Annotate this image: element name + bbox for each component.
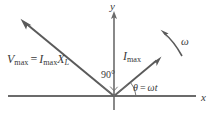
current-subscript: max	[127, 55, 141, 64]
time-symbol: t	[155, 82, 158, 93]
phasor-diagram-figure: Vmax=ImaxXL Imax ω 90° θ=ωt y x	[0, 0, 213, 118]
voltage-subscript: max	[14, 58, 28, 67]
voltage-phasor-label: Vmax=ImaxXL	[7, 53, 69, 67]
right-angle-label: 90°	[101, 70, 115, 80]
angular-velocity-label: ω	[181, 36, 189, 47]
current-subscript-in-equation: max	[43, 58, 57, 67]
theta-symbol: θ	[133, 82, 138, 93]
current-phasor-arrowhead	[153, 56, 162, 66]
equals-sign: =	[30, 52, 37, 66]
x-axis-label: x	[201, 92, 206, 103]
theta-expression-label: θ=ωt	[133, 83, 157, 93]
current-phasor-label: Imax	[123, 50, 141, 64]
angular-velocity-arc	[164, 33, 182, 56]
reactance-symbol: X	[57, 52, 64, 66]
omega-symbol-in-expression: ω	[148, 82, 155, 93]
voltage-phasor-arrowhead	[21, 19, 32, 30]
reactance-subscript: L	[65, 58, 70, 67]
theta-equals-sign: =	[140, 82, 146, 93]
y-axis-label: y	[110, 1, 115, 12]
